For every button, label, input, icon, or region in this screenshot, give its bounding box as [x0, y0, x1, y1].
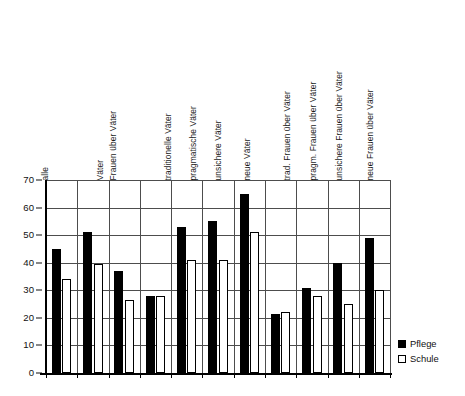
x-tick-8 — [296, 374, 297, 378]
category-label-3: traditionelle Väter — [164, 113, 172, 180]
y-tick-mark-40 — [36, 262, 42, 263]
category-label-5: unsichere Väter — [214, 120, 222, 180]
category-label-6: neue Väter — [243, 138, 251, 180]
bar-pflege-5 — [208, 221, 217, 373]
gridline-v-11 — [390, 180, 391, 373]
bar-pflege-3 — [146, 296, 155, 373]
bar-schule-5 — [219, 260, 228, 373]
bar-chart: alle Väter Frauen über Väter traditionel… — [0, 0, 465, 396]
legend-item-schule: Schule — [398, 351, 462, 366]
bar-schule-6 — [250, 232, 259, 373]
category-label-7: trad. Frauen über Väter — [283, 91, 291, 180]
x-tick-9 — [328, 374, 329, 378]
bar-pflege-7 — [271, 314, 280, 373]
y-tick-mark-60 — [36, 207, 42, 208]
category-label-10: neue Frauen über Väter — [366, 89, 374, 180]
legend-label-pflege: Pflege — [410, 339, 437, 348]
y-tick-label-60: 60 — [23, 203, 34, 213]
x-tick-2 — [109, 374, 110, 378]
x-tick-10 — [359, 374, 360, 378]
bar-pflege-2 — [114, 271, 123, 373]
plot-area: 70 60 50 40 30 20 10 0 — [0, 178, 465, 378]
y-tick-mark-10 — [36, 345, 42, 346]
y-tick-mark-30 — [36, 290, 42, 291]
category-label-4: pragmatische Väter — [189, 106, 197, 180]
bar-schule-1 — [94, 264, 103, 373]
x-tick-0 — [46, 374, 47, 378]
bar-schule-2 — [125, 300, 134, 373]
y-tick-label-30: 30 — [23, 286, 34, 296]
y-tick-label-0: 0 — [29, 368, 34, 378]
x-tick-11 — [390, 374, 391, 378]
bar-schule-7 — [281, 312, 290, 373]
y-tick-label-40: 40 — [23, 258, 34, 268]
legend-swatch-schule-icon — [398, 355, 406, 363]
category-label-9: unsichere Frauen über Väter — [335, 71, 343, 180]
category-label-8: pragm. Frauen über Väter — [309, 81, 317, 180]
category-labels: alle Väter Frauen über Väter traditionel… — [0, 0, 465, 180]
bar-pflege-9 — [333, 263, 342, 373]
legend-swatch-pflege-icon — [398, 340, 406, 348]
bar-pflege-6 — [240, 194, 249, 373]
x-tick-3 — [140, 374, 141, 378]
x-tick-6 — [234, 374, 235, 378]
y-tick-mark-20 — [36, 317, 42, 318]
category-label-1: Väter — [96, 159, 104, 180]
bar-schule-9 — [344, 304, 353, 373]
y-axis: 70 60 50 40 30 20 10 0 — [0, 178, 44, 374]
bar-pflege-10 — [365, 238, 374, 373]
bar-pflege-1 — [83, 232, 92, 373]
y-tick-label-70: 70 — [23, 175, 34, 185]
x-tick-1 — [77, 374, 78, 378]
bar-pflege-8 — [302, 288, 311, 373]
bar-schule-8 — [313, 296, 322, 373]
category-label-2: Frauen über Väter — [109, 110, 117, 180]
x-axis-line — [40, 373, 392, 375]
y-tick-mark-50 — [36, 235, 42, 236]
bar-schule-10 — [375, 290, 384, 373]
chart-legend: Pflege Schule — [398, 336, 462, 366]
bars — [46, 180, 390, 373]
legend-label-schule: Schule — [410, 354, 439, 363]
x-tick-4 — [171, 374, 172, 378]
bar-pflege-4 — [177, 227, 186, 373]
x-tick-5 — [202, 374, 203, 378]
y-tick-label-20: 20 — [23, 313, 34, 323]
bar-pflege-0 — [52, 249, 61, 373]
bar-schule-3 — [156, 296, 165, 373]
y-tick-mark-70 — [36, 180, 42, 181]
y-tick-label-50: 50 — [23, 230, 34, 240]
bar-schule-0 — [62, 279, 71, 373]
x-tick-7 — [265, 374, 266, 378]
bar-schule-4 — [187, 260, 196, 373]
y-tick-label-10: 10 — [23, 341, 34, 351]
legend-item-pflege: Pflege — [398, 336, 462, 351]
